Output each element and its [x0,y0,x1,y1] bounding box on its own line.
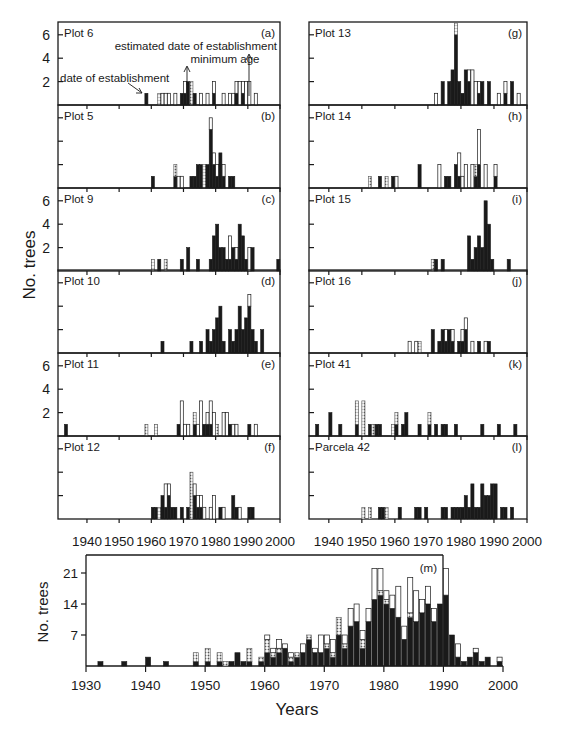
x-tick-label: 1950 [347,534,377,549]
bar-segment-black [464,330,467,353]
bar-segment-black [487,82,490,105]
bar-segment-white [477,82,480,94]
bar-segment-white [384,591,389,600]
bar-segment-black [216,224,219,271]
bar-segment-black [420,613,425,666]
panel-letter: (d) [261,275,275,287]
panel-i: Plot 15(i) [309,188,527,275]
bar-segment-black [375,424,378,436]
bar-segment-black [241,93,244,105]
bar-segment-hatched [360,639,365,648]
bar-segment-black [158,259,161,271]
lower-xlabel: Years [276,700,319,719]
bar-segment-black [180,93,183,105]
panel-a: 246Plot 6(a) [42,22,280,109]
bar-segment-black [398,507,401,519]
bar-segment-white [209,118,212,130]
bar-segment-hatched [289,657,294,661]
bar-segment-hatched [193,413,196,425]
bar-segment-white [408,577,413,612]
bar-segment-black [494,176,497,188]
bar-segment-black [209,424,212,436]
bar-segment-black [193,662,198,666]
bar-segment-black [454,424,457,436]
bar-segment-black [471,259,474,271]
panel-letter: (k) [509,358,523,370]
bar-segment-black [461,662,466,666]
y-tick-label: 4 [42,50,50,66]
bar-segment-black [248,306,251,353]
bar-segment-black [477,93,480,105]
bar-segment-black [235,653,240,666]
y-tick-label: 6 [42,27,50,43]
bar-segment-black [339,424,342,436]
panel-title: Plot 11 [64,358,99,370]
bar-segment-black [382,507,385,519]
bar-segment-black [229,662,234,666]
bar-segment-black [295,657,300,666]
bar-segment-white [225,413,228,436]
bar-segment-hatched [295,653,300,657]
bar-segment-hatched [164,259,167,271]
bar-segment-black [238,224,241,271]
panel-title: Plot 10 [64,275,100,287]
x-tick-label: 2000 [488,678,518,693]
bar-segment-black [200,507,203,519]
bar-segment-black [437,604,442,666]
bar-segment-white [180,401,183,436]
bar-segment-white [473,648,478,652]
panel-letter: (l) [512,441,522,453]
bar-segment-white [212,82,215,94]
panel-letter: (i) [512,193,522,205]
bar-segment-black [378,176,381,188]
bar-segment-black [461,93,464,105]
bar-segment-black [330,657,335,666]
bar-segment-black [209,341,212,353]
x-tick-label: 2000 [265,534,295,549]
bar-segment-white [342,635,347,644]
bar-segment-black [247,662,252,666]
bar-segment-white [497,657,502,661]
bar-segment-black [222,176,225,188]
x-tick-label: 1970 [413,534,443,549]
bar-segment-hatched [342,644,347,648]
bar-segment-white [212,153,215,165]
panel-letter: (b) [261,110,275,122]
panel-title: Plot 13 [315,27,351,39]
bar-segment-black [336,635,341,666]
y-tick-label: 2 [42,74,50,90]
bar-segment-white [504,82,507,94]
bar-segment-white [464,165,467,188]
bar-segment-white [277,639,282,648]
bar-segment-white [254,424,257,436]
bar-segment-black [484,496,487,519]
bar-segment-hatched [362,401,365,436]
bar-segment-hatched [330,653,335,657]
bar-segment-black [372,600,377,666]
bar-segment-white [161,93,164,105]
x-tick-label: 1990 [428,678,458,693]
bar-segment-black [98,662,103,666]
bar-segment-black [187,82,190,105]
bar-segment-black [222,341,225,353]
y-tick-label: 6 [42,358,50,374]
bar-segment-black [408,617,413,666]
bar-segment-black [484,201,487,271]
x-tick-label: 2000 [512,534,542,549]
bar-segment-hatched [378,591,383,595]
bar-segment-black [190,341,193,353]
bar-segment-black [277,259,280,271]
bar-segment-black [415,507,418,519]
y-tick-label: 2 [42,240,50,256]
bar-segment-black [163,662,168,666]
bar-segment-hatched [271,653,276,657]
bar-segment-black [324,648,329,666]
bar-segment-white [271,648,276,652]
bar-segment-white [464,318,467,330]
bar-segment-black [497,662,502,666]
bar-segment-white [444,330,447,342]
x-tick-label: 1930 [71,678,101,693]
bar-segment-white [471,165,474,188]
bar-segment-black [477,341,480,353]
bar-segment-black [232,496,235,519]
